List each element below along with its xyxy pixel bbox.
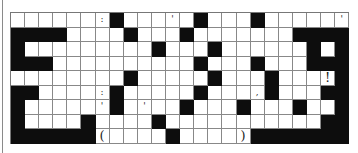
- letter-cell[interactable]: [265, 57, 279, 72]
- letter-cell[interactable]: [279, 115, 293, 130]
- letter-cell[interactable]: [265, 115, 279, 130]
- letter-cell[interactable]: [166, 71, 180, 86]
- letter-cell[interactable]: [222, 42, 236, 57]
- letter-cell[interactable]: [124, 115, 138, 130]
- letter-cell[interactable]: (: [96, 129, 110, 144]
- letter-cell[interactable]: [180, 115, 194, 130]
- letter-cell[interactable]: [208, 129, 222, 144]
- letter-cell[interactable]: [222, 100, 236, 115]
- letter-cell[interactable]: [293, 86, 307, 101]
- letter-cell[interactable]: [53, 42, 67, 57]
- letter-cell[interactable]: [67, 86, 81, 101]
- letter-cell[interactable]: [166, 86, 180, 101]
- letter-cell[interactable]: [110, 57, 124, 72]
- letter-cell[interactable]: [81, 100, 95, 115]
- letter-cell[interactable]: [152, 129, 166, 144]
- letter-cell[interactable]: [222, 57, 236, 72]
- letter-cell[interactable]: [53, 86, 67, 101]
- letter-cell[interactable]: [293, 57, 307, 72]
- letter-cell[interactable]: [208, 13, 222, 28]
- letter-cell[interactable]: [194, 42, 208, 57]
- letter-cell[interactable]: [39, 13, 53, 28]
- letter-cell[interactable]: [96, 42, 110, 57]
- letter-cell[interactable]: [222, 86, 236, 101]
- letter-cell[interactable]: [138, 71, 152, 86]
- letter-cell[interactable]: [166, 28, 180, 43]
- letter-cell[interactable]: [138, 57, 152, 72]
- letter-cell[interactable]: [152, 28, 166, 43]
- letter-cell[interactable]: [180, 86, 194, 101]
- letter-cell[interactable]: [53, 100, 67, 115]
- letter-cell[interactable]: [265, 100, 279, 115]
- letter-cell[interactable]: [25, 115, 39, 130]
- letter-cell[interactable]: [307, 100, 321, 115]
- letter-cell[interactable]: [293, 115, 307, 130]
- letter-cell[interactable]: [194, 100, 208, 115]
- letter-cell[interactable]: :: [96, 86, 110, 101]
- letter-cell[interactable]: [237, 42, 251, 57]
- letter-cell[interactable]: [25, 71, 39, 86]
- letter-cell[interactable]: [81, 13, 95, 28]
- letter-cell[interactable]: [152, 71, 166, 86]
- letter-cell[interactable]: [237, 86, 251, 101]
- letter-cell[interactable]: [124, 86, 138, 101]
- letter-cell[interactable]: [293, 13, 307, 28]
- letter-cell[interactable]: [96, 115, 110, 130]
- letter-cell[interactable]: [67, 71, 81, 86]
- letter-cell[interactable]: [67, 100, 81, 115]
- letter-cell[interactable]: [110, 28, 124, 43]
- letter-cell[interactable]: [53, 13, 67, 28]
- letter-cell[interactable]: [81, 42, 95, 57]
- letter-cell[interactable]: [96, 28, 110, 43]
- letter-cell[interactable]: [81, 71, 95, 86]
- letter-cell[interactable]: [138, 86, 152, 101]
- letter-cell[interactable]: [180, 129, 194, 144]
- letter-cell[interactable]: [152, 57, 166, 72]
- letter-cell[interactable]: [208, 100, 222, 115]
- letter-cell[interactable]: [251, 115, 265, 130]
- letter-cell[interactable]: ': [96, 100, 110, 115]
- letter-cell[interactable]: [110, 42, 124, 57]
- letter-cell[interactable]: [138, 115, 152, 130]
- letter-cell[interactable]: [166, 42, 180, 57]
- letter-cell[interactable]: [67, 57, 81, 72]
- letter-cell[interactable]: [110, 115, 124, 130]
- letter-cell[interactable]: [222, 115, 236, 130]
- letter-cell[interactable]: [53, 115, 67, 130]
- letter-cell[interactable]: [237, 28, 251, 43]
- letter-cell[interactable]: [293, 71, 307, 86]
- letter-cell[interactable]: [124, 57, 138, 72]
- letter-cell[interactable]: [152, 86, 166, 101]
- letter-cell[interactable]: [265, 42, 279, 57]
- letter-cell[interactable]: [237, 71, 251, 86]
- letter-cell[interactable]: [265, 13, 279, 28]
- letter-cell[interactable]: [222, 13, 236, 28]
- letter-cell[interactable]: [110, 129, 124, 144]
- letter-cell[interactable]: [39, 86, 53, 101]
- letter-cell[interactable]: [110, 71, 124, 86]
- letter-cell[interactable]: [237, 13, 251, 28]
- letter-cell[interactable]: [152, 100, 166, 115]
- letter-cell[interactable]: [307, 13, 321, 28]
- letter-cell[interactable]: [321, 42, 335, 57]
- letter-cell[interactable]: [124, 42, 138, 57]
- letter-cell[interactable]: [222, 28, 236, 43]
- letter-cell[interactable]: [251, 42, 265, 57]
- letter-cell[interactable]: [279, 71, 293, 86]
- letter-cell[interactable]: ': [335, 13, 349, 28]
- letter-cell[interactable]: [237, 115, 251, 130]
- letter-cell[interactable]: [81, 28, 95, 43]
- letter-cell[interactable]: [67, 115, 81, 130]
- letter-cell[interactable]: [166, 57, 180, 72]
- letter-cell[interactable]: [138, 42, 152, 57]
- letter-cell[interactable]: ): [237, 129, 251, 144]
- letter-cell[interactable]: [251, 28, 265, 43]
- letter-cell[interactable]: [11, 13, 25, 28]
- letter-cell[interactable]: [96, 57, 110, 72]
- letter-cell[interactable]: [208, 57, 222, 72]
- letter-cell[interactable]: [251, 71, 265, 86]
- letter-cell[interactable]: [208, 115, 222, 130]
- letter-cell[interactable]: [67, 28, 81, 43]
- letter-cell[interactable]: [321, 100, 335, 115]
- letter-cell[interactable]: [194, 71, 208, 86]
